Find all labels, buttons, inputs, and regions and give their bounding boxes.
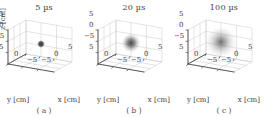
panel-b-title: 20 µs [90,3,178,13]
panel-c-xlabel: x [cm] [238,96,260,104]
panel-b-ztick-2: −5 [84,32,94,40]
panel-a-axes: 5 0 −5 5 0 −5 −5 0 5 [0,14,88,86]
panel-a-zlabel: z [cm] [0,8,7,30]
panel-c-xtick-2: 5 [248,43,252,51]
panel-c: 100 µs [180,0,268,117]
panel-b-ytick-1: 0 [104,50,108,58]
panel-c-ztick-2: −5 [174,32,184,40]
panel-c-ytick-1: 0 [194,50,198,58]
figure-three-panel-3d-scatter: 5 µs [0,0,268,117]
particle-cloud-b [122,34,141,53]
panel-b-ylabel: y [cm] [97,96,119,104]
panel-a-ylabel: y [cm] [7,96,29,104]
panel-a-xlabel: x [cm] [58,96,80,104]
panel-b-xtick-1: 0 [144,50,148,58]
panel-c-title: 100 µs [180,3,268,13]
panel-b-xtick-2: 5 [158,43,162,51]
panel-b-caption: ( b ) [90,106,178,115]
panel-c-caption: ( c ) [180,106,268,115]
panel-a-ytick-1: 0 [14,50,18,58]
panel-b-ytick-0: 5 [89,43,93,51]
panel-b-ztick-1: 0 [89,21,93,29]
panel-b-xtick-0: −5 [131,56,141,64]
particle-cloud-a [37,40,45,48]
panel-c-axes: 5 0 −5 5 0 −5 −5 0 5 [180,14,268,86]
panel-a-caption: ( a ) [0,106,88,115]
panel-c-ylabel: y [cm] [187,96,209,104]
panel-b-ytick-2: −5 [117,56,127,64]
panel-a-ytick-2: −5 [27,56,37,64]
panel-c-xtick-0: −5 [221,56,231,64]
panel-a-xtick-2: 5 [68,43,72,51]
panel-c-xtick-1: 0 [234,50,238,58]
panel-b-ztick-0: 5 [89,10,93,18]
panel-c-ytick-0: 5 [179,43,183,51]
particle-cloud-c [206,27,237,58]
panel-a-xtick-0: −5 [41,56,51,64]
panel-b-axes: 5 0 −5 5 0 −5 −5 0 5 [90,14,178,86]
panel-c-ztick-1: 0 [179,21,183,29]
panel-a-xtick-1: 0 [54,50,58,58]
panel-c-ytick-2: −5 [207,56,217,64]
panel-a-title: 5 µs [0,3,88,13]
panel-c-ztick-0: 5 [179,10,183,18]
panel-a: 5 µs [0,0,88,117]
panel-b: 20 µs [90,0,178,117]
panel-b-xlabel: x [cm] [148,96,170,104]
panel-a-ytick-0: 5 [0,43,3,51]
panel-a-ztick-2: −5 [0,32,4,40]
